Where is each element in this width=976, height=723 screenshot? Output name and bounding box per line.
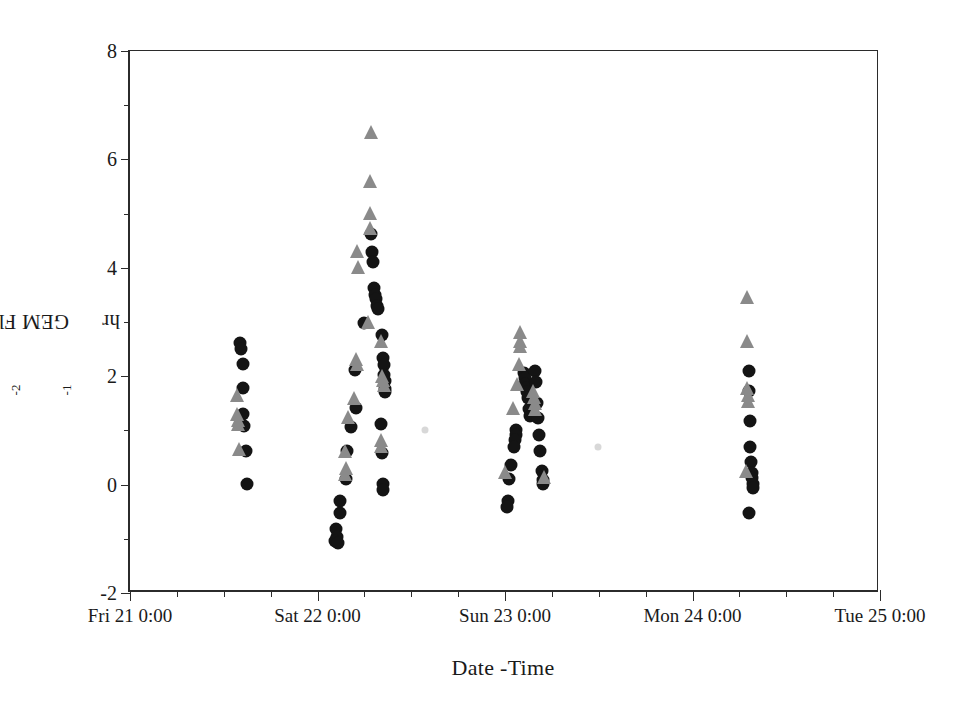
- x-tick-major: [505, 590, 506, 601]
- data-point-circle: [743, 414, 756, 427]
- y-tick-major: [121, 485, 130, 486]
- data-point-triangle: [537, 470, 551, 484]
- y-tick-minor: [124, 430, 130, 431]
- data-point-circle: [234, 343, 247, 356]
- data-point-triangle: [361, 315, 375, 329]
- data-point-circle: [532, 428, 545, 441]
- y-tick-major: [121, 268, 130, 269]
- y-tick-label: 2: [107, 366, 117, 386]
- y-axis-title-sup-2: -1: [59, 384, 74, 395]
- data-point-circle: [746, 481, 759, 494]
- x-tick-minor: [177, 590, 178, 597]
- data-point-triangle: [350, 244, 364, 258]
- y-tick-major: [121, 159, 130, 160]
- y-tick-minor: [124, 322, 130, 323]
- data-point-triangle: [512, 357, 526, 371]
- data-point-triangle: [740, 334, 754, 348]
- x-tick-major: [130, 590, 131, 601]
- data-point-triangle: [363, 221, 377, 235]
- faint-artifact-mark: [422, 427, 429, 434]
- data-point-circle: [236, 358, 249, 371]
- plot-area: -202468 Fri 21 0:00Sat 22 0:00Sun 23 0:0…: [128, 50, 878, 592]
- data-point-triangle: [351, 260, 365, 274]
- data-point-circle: [377, 484, 390, 497]
- data-point-circle: [366, 256, 379, 269]
- data-point-circle: [742, 506, 755, 519]
- data-point-triangle: [510, 377, 524, 391]
- data-point-triangle: [740, 290, 754, 304]
- data-point-circle: [508, 440, 521, 453]
- x-tick-label: Sat 22 0:00: [274, 606, 361, 625]
- x-axis-title: Date -Time: [128, 655, 878, 681]
- data-point-triangle: [377, 378, 391, 392]
- y-axis-title: GEM Flux (ng m-2 hr-1): [26, 50, 66, 592]
- data-point-triangle: [498, 465, 512, 479]
- data-point-triangle: [338, 444, 352, 458]
- data-point-triangle: [513, 339, 527, 353]
- data-point-triangle: [341, 410, 355, 424]
- x-tick-minor: [786, 590, 787, 597]
- y-axis-title-text: GEM Flux (ng m-2 hr-1): [0, 247, 110, 395]
- x-tick-minor: [599, 590, 600, 597]
- x-tick-minor: [224, 590, 225, 597]
- y-tick-major: [121, 593, 130, 594]
- y-tick-major: [121, 376, 130, 377]
- y-tick-minor: [124, 214, 130, 215]
- x-tick-minor: [458, 590, 459, 597]
- faint-artifact-mark: [594, 443, 601, 450]
- data-point-circle: [331, 537, 344, 550]
- x-tick-minor: [411, 590, 412, 597]
- y-tick-minor: [124, 539, 130, 540]
- x-tick-label: Fri 21 0:00: [88, 606, 172, 625]
- data-point-circle: [534, 444, 547, 457]
- data-point-circle: [241, 477, 254, 490]
- y-tick-label: 0: [107, 475, 117, 495]
- data-point-circle: [333, 506, 346, 519]
- x-tick-minor: [271, 590, 272, 597]
- x-tick-label: Sun 23 0:00: [459, 606, 551, 625]
- y-tick-label: -2: [100, 583, 117, 603]
- x-tick-minor: [739, 590, 740, 597]
- data-point-circle: [742, 364, 755, 377]
- data-point-triangle: [230, 388, 244, 402]
- y-tick-label: 6: [107, 149, 117, 169]
- data-point-circle: [501, 501, 514, 514]
- data-point-triangle: [231, 417, 245, 431]
- data-point-triangle: [347, 391, 361, 405]
- x-tick-label: Tue 25 0:00: [834, 606, 925, 625]
- data-point-circle: [375, 417, 388, 430]
- x-tick-major: [880, 590, 881, 601]
- data-point-triangle: [506, 401, 520, 415]
- data-point-triangle: [374, 334, 388, 348]
- figure-canvas: GEM Flux (ng m-2 hr-1) -202468 Fri 21 0:…: [0, 0, 976, 723]
- x-tick-major: [693, 590, 694, 601]
- x-tick-major: [318, 590, 319, 601]
- data-point-triangle: [350, 357, 364, 371]
- x-tick-minor: [646, 590, 647, 597]
- data-point-triangle: [363, 174, 377, 188]
- data-point-triangle: [232, 442, 246, 456]
- x-tick-label: Mon 24 0:00: [643, 606, 741, 625]
- data-point-triangle: [363, 206, 377, 220]
- data-point-triangle: [364, 125, 378, 139]
- y-tick-label: 4: [107, 258, 117, 278]
- data-point-triangle: [739, 464, 753, 478]
- x-tick-minor: [552, 590, 553, 597]
- x-tick-minor: [833, 590, 834, 597]
- y-axis-title-sup-1: -2: [8, 384, 23, 395]
- data-point-triangle: [741, 394, 755, 408]
- data-point-triangle: [374, 439, 388, 453]
- y-tick-label: 8: [107, 41, 117, 61]
- x-tick-minor: [364, 590, 365, 597]
- y-tick-major: [121, 51, 130, 52]
- data-point-triangle: [338, 467, 352, 481]
- data-point-circle: [744, 440, 757, 453]
- y-tick-minor: [124, 105, 130, 106]
- data-point-triangle: [528, 402, 542, 416]
